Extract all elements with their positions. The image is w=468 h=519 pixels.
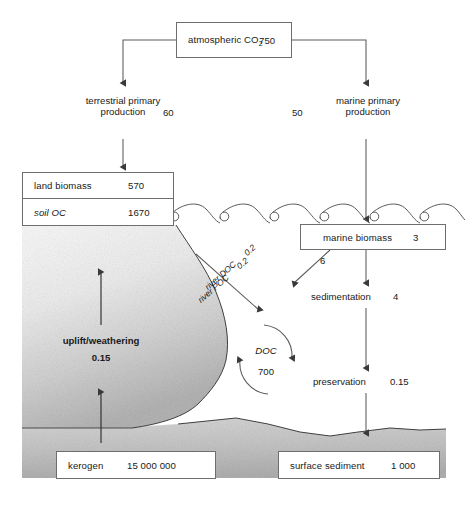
value-marine-primary-production: 50	[292, 107, 303, 118]
box-land-biomass[interactable]: land biomass 570	[22, 172, 174, 199]
tpp-line1: terrestrial primary	[86, 95, 161, 106]
carbon-cycle-diagram: atmospheric CO2 750 land biomass 570 soi…	[0, 0, 468, 519]
box-kerogen[interactable]: kerogen 15 000 000	[56, 451, 216, 479]
value-doc-pool: 700	[236, 366, 296, 377]
marine-biomass-label: marine biomass	[301, 232, 392, 243]
value-terrestrial-primary-production: 60	[163, 107, 174, 118]
value-preservation: 0.15	[390, 376, 409, 387]
label-sedimentation: sedimentation	[311, 291, 371, 302]
surface-sediment-value: 1 000	[391, 460, 416, 471]
surface-sediment-label: surface sediment	[279, 460, 365, 471]
soil-oc-value: 1670	[128, 207, 150, 218]
box-soil-oc[interactable]: soil OC 1670	[22, 199, 174, 226]
soil-oc-label: soil OC	[23, 207, 66, 218]
uplift-line2: 0.15	[92, 352, 111, 363]
value-sedimentation: 4	[393, 291, 398, 302]
uplift-line1: uplift/weathering	[63, 335, 140, 346]
kerogen-value: 15 000 000	[127, 460, 176, 471]
label-doc-pool: DOC	[236, 345, 296, 356]
label-marine-primary-production: marine primary production	[314, 95, 422, 118]
value-marine-biomass-to-doc: 6	[320, 255, 325, 266]
mpp-line1: marine primary	[336, 95, 400, 106]
land-biomass-value: 570	[128, 180, 144, 191]
atmospheric-co2-label: atmospheric CO2	[177, 34, 263, 47]
box-marine-biomass[interactable]: marine biomass 3	[300, 224, 446, 250]
box-surface-sediment[interactable]: surface sediment 1 000	[278, 451, 440, 479]
label-preservation: preservation	[313, 376, 366, 387]
marine-biomass-value: 3	[413, 232, 418, 243]
label-uplift-weathering: uplift/weathering 0.15	[40, 332, 162, 366]
box-atmospheric-co2[interactable]: atmospheric CO2 750	[176, 22, 292, 58]
atmospheric-co2-value: 750	[259, 35, 275, 46]
mpp-line2: production	[346, 106, 391, 117]
kerogen-label: kerogen	[57, 460, 103, 471]
land-biomass-label: land biomass	[23, 180, 92, 191]
tpp-line2: production	[101, 106, 146, 117]
